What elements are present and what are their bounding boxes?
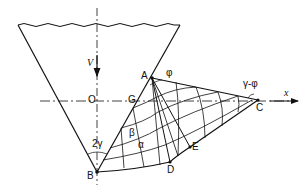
free-surface — [18, 24, 180, 27]
label-B: B — [87, 171, 94, 181]
label-alpha: α — [138, 140, 144, 150]
label-v: V — [87, 58, 93, 68]
boundary-CE — [190, 100, 258, 147]
diagram-drawing — [0, 0, 307, 194]
diagram: V O G A φ γ-φ C x 2γ β α D E B — [0, 0, 307, 194]
label-A: A — [141, 71, 148, 81]
label-two-gamma: 2γ — [92, 139, 103, 149]
label-x: x — [284, 88, 288, 98]
label-D: D — [167, 165, 174, 175]
label-O: O — [88, 95, 96, 105]
left-wall — [18, 25, 97, 172]
label-gamma-minus-phi: γ-φ — [243, 79, 258, 89]
label-E: E — [192, 142, 199, 152]
label-phi: φ — [166, 68, 172, 78]
label-C: C — [256, 103, 263, 113]
label-beta: β — [129, 128, 135, 138]
label-G: G — [128, 95, 136, 105]
